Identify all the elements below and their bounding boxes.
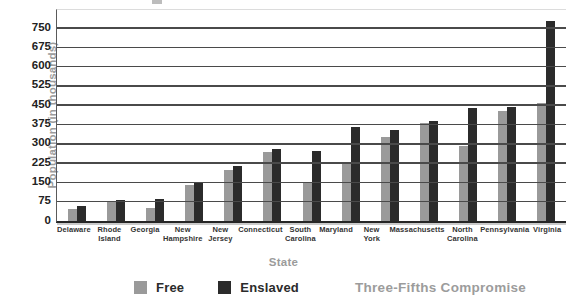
bar-group-new-york [370,10,409,221]
y-tick-label-225: 225 [7,157,51,168]
bar-group-georgia [135,10,174,221]
bar-group-north-carolina [449,10,488,221]
enslaved-bar-rhode-island [116,200,125,221]
legend-swatch-free [134,281,147,294]
bar-group-connecticut [253,10,292,221]
legend-label-free: Free [156,280,184,295]
population-bar-chart-figure: Population (in thousands) 07515022530037… [0,0,567,303]
bar-group-massachusetts [409,10,448,221]
gridline-525 [57,85,566,87]
legend-item-enslaved: Enslaved [218,280,299,295]
bar-group-new-hampshire [174,10,213,221]
x-label-south-carolina: SouthCarolina [283,226,319,243]
legend-swatch-enslaved [218,281,231,294]
legend-label-enslaved: Enslaved [240,280,299,295]
y-tick-label-675: 675 [7,41,51,52]
enslaved-bar-massachusetts [429,121,438,221]
bar-group-delaware [57,10,96,221]
free-bar-massachusetts [420,123,429,221]
x-label-new-jersey: NewJersey [203,226,239,243]
free-bar-new-hampshire [185,185,194,221]
gridline-450 [57,104,566,106]
gridline-750 [57,27,566,29]
bar-group-south-carolina [292,10,331,221]
x-label-massachusetts: Massachusetts [389,226,444,243]
gridline-75 [57,201,566,203]
free-bar-new-jersey [224,170,233,221]
y-tick-label-525: 525 [7,79,51,90]
x-label-north-carolina: NorthCarolina [445,226,481,243]
gridline-150 [57,182,566,184]
gridline-300 [57,143,566,145]
x-label-georgia: Georgia [127,226,163,243]
bar-group-new-jersey [214,10,253,221]
y-tick-label-450: 450 [7,99,51,110]
bar-group-pennsylvania [488,10,527,221]
free-bar-pennsylvania [498,111,507,221]
bar-group-virginia [527,10,566,221]
legend: FreeEnslavedThree-Fifths Compromise [134,279,526,295]
x-label-virginia: Virginia [529,226,565,243]
cropped-title-artifact [152,0,162,4]
y-tick-label-150: 150 [7,176,51,187]
enslaved-bar-virginia [546,21,555,221]
free-bar-north-carolina [459,146,468,221]
gridline-675 [57,47,566,49]
enslaved-bar-delaware [77,206,86,221]
legend-item-free: Free [134,280,184,295]
enslaved-bar-new-jersey [233,166,242,221]
x-label-delaware: Delaware [56,226,92,243]
free-bar-new-york [381,137,390,221]
x-axis-category-labels: DelawareRhodeIslandGeorgiaNewHampshireNe… [56,226,565,243]
x-label-pennsylvania: Pennsylvania [480,226,529,243]
gridline-225 [57,162,566,164]
plot-area: 075150225300375450525600675750 [56,9,566,223]
y-tick-label-75: 75 [7,195,51,206]
bars-row [57,10,566,221]
y-tick-label-0: 0 [7,215,51,226]
free-bar-georgia [146,208,155,221]
x-label-rhode-island: RhodeIsland [92,226,128,243]
enslaved-bar-maryland [351,127,360,221]
bar-group-maryland [331,10,370,221]
x-label-new-york: NewYork [354,226,390,243]
x-label-new-hampshire: NewHampshire [163,226,203,243]
free-bar-rhode-island [107,202,116,221]
y-tick-label-300: 300 [7,137,51,148]
x-label-maryland: Maryland [318,226,354,243]
enslaved-bar-connecticut [272,149,281,221]
x-axis-title: State [0,256,567,268]
gridline-375 [57,124,566,126]
gridline-600 [57,66,566,68]
free-bar-maryland [342,163,351,221]
x-label-connecticut: Connecticut [238,226,282,243]
y-tick-label-375: 375 [7,118,51,129]
y-tick-label-600: 600 [7,60,51,71]
y-tick-label-750: 750 [7,22,51,33]
free-bar-delaware [68,209,77,221]
chart-caption: Three-Fifths Compromise [355,280,526,295]
bar-group-rhode-island [96,10,135,221]
